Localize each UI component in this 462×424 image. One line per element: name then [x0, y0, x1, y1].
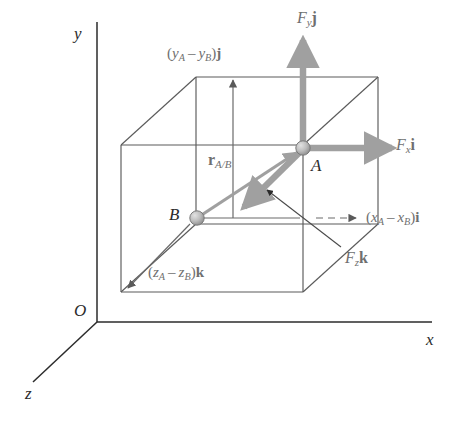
z-axis-label: z — [25, 384, 32, 404]
figure-root: y x z O A B Fyj Fxi Fzk rA/B (yA–yB)j (z… — [0, 0, 462, 424]
dim-dx-minus: – — [384, 209, 398, 225]
dimension-arrows — [128, 80, 356, 288]
force-label-Fz-base: F — [345, 249, 355, 266]
force-label-Fy: Fyj — [297, 10, 317, 28]
position-vector-label-rAB: rA/B — [208, 152, 231, 170]
box-edge-depth-top-left — [121, 77, 196, 145]
dim-dx-term-a: x — [371, 209, 378, 225]
dimension-label-dz: (zA–zB)k — [148, 265, 204, 282]
x-axis-label: x — [426, 330, 434, 350]
z-axis-line — [33, 322, 97, 382]
dimension-label-dy: (yA–yB)j — [167, 46, 221, 63]
force-vector-Fz — [244, 150, 302, 207]
y-axis-label: y — [74, 24, 82, 44]
point-label-A: A — [311, 156, 321, 176]
force-label-Fz-unit: k — [359, 249, 368, 266]
force-label-Fx-base: F — [396, 136, 406, 153]
point-A-marker — [296, 141, 310, 155]
origin-label: O — [74, 301, 86, 321]
force-label-Fx-unit: i — [411, 136, 415, 153]
force-label-Fz: Fzk — [345, 250, 368, 268]
dim-dx-unit: i — [415, 209, 419, 225]
force-label-Fx: Fxi — [396, 137, 415, 155]
box-edge-depth-top-right — [303, 77, 378, 145]
position-vector-label-sub: A/B — [215, 158, 231, 170]
dimension-label-dx: (xA–xB)i — [366, 210, 419, 227]
dim-dy-term-a: y — [172, 45, 179, 61]
force-label-Fy-unit: j — [312, 9, 317, 26]
point-label-B: B — [169, 205, 179, 225]
dim-dx-term-a-sub: A — [378, 216, 384, 227]
dim-dy-unit: j — [216, 45, 221, 61]
dim-dy-term-a-sub: A — [179, 52, 185, 63]
force-vectors — [244, 40, 392, 207]
dim-dz-minus: – — [165, 264, 179, 280]
dim-dy-minus: – — [185, 45, 199, 61]
point-B-marker — [190, 211, 204, 225]
force-label-Fy-base: F — [297, 9, 307, 26]
dim-dz-unit: k — [196, 264, 204, 280]
